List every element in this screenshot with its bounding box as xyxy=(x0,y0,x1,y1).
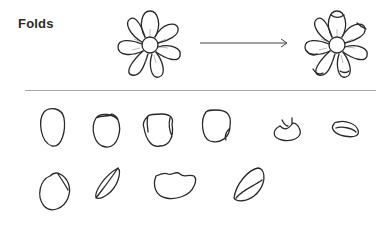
folds-illustration xyxy=(0,0,391,227)
petal-wavy-top-icon xyxy=(154,173,195,199)
right-arrow-icon xyxy=(200,39,287,47)
petal-cupped-icon xyxy=(274,118,300,141)
petal-fold-corner-icon xyxy=(203,110,231,142)
petal-fold-corner-right-icon xyxy=(40,173,70,210)
folded-flower-icon xyxy=(305,11,367,77)
flat-flower-icon xyxy=(118,11,180,77)
petal-curled-icon xyxy=(234,168,264,201)
petal-fold-sides-icon xyxy=(143,114,172,146)
petal-folded-half-icon xyxy=(96,168,120,198)
petal-round-icon xyxy=(41,109,65,147)
divider xyxy=(25,90,376,91)
petal-rolled-icon xyxy=(332,121,358,136)
petal-fold-top-icon xyxy=(93,114,119,147)
